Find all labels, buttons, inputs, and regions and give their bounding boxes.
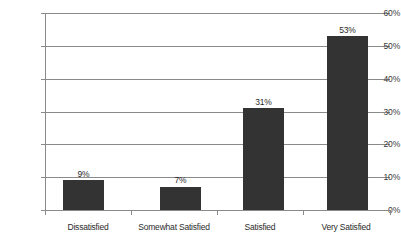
y-tick-mark-40 (41, 79, 45, 80)
y-axis-label-40: 40% (362, 74, 400, 84)
bar-value-label-somewhat-satisfied: 7% (151, 175, 211, 185)
y-tick-mark-50 (41, 46, 45, 47)
bar-value-label-satisfied: 31% (234, 97, 294, 107)
y-axis-label-30: 30% (362, 107, 400, 117)
y-axis-line (45, 13, 46, 211)
y-axis-label-20: 20% (362, 139, 400, 149)
plot-area: 9% 7% 31% 53% (45, 13, 390, 210)
y-axis-label-50: 50% (362, 41, 400, 51)
bar-somewhat-satisfied (160, 187, 201, 210)
bar-satisfied (243, 108, 284, 210)
x-tick-mark-2 (217, 210, 218, 215)
x-tick-mark-1 (131, 210, 132, 215)
y-tick-mark-60 (41, 13, 45, 14)
gridline-60 (45, 13, 390, 14)
bar-dissatisfied (63, 180, 104, 210)
y-axis-label-60: 60% (362, 8, 400, 18)
x-axis-category-very-satisfied: Very Satisfied (291, 222, 401, 232)
y-axis-label-10: 10% (362, 172, 400, 182)
bar-value-label-dissatisfied: 9% (54, 169, 114, 179)
y-tick-mark-10 (41, 177, 45, 178)
x-tick-mark-0 (45, 210, 46, 215)
x-axis-line (45, 210, 391, 211)
x-tick-mark-3 (303, 210, 304, 215)
x-tick-mark-4 (390, 210, 391, 215)
y-tick-mark-30 (41, 112, 45, 113)
bar-value-label-very-satisfied: 53% (318, 25, 378, 35)
bar-very-satisfied (327, 36, 368, 210)
y-tick-mark-20 (41, 144, 45, 145)
